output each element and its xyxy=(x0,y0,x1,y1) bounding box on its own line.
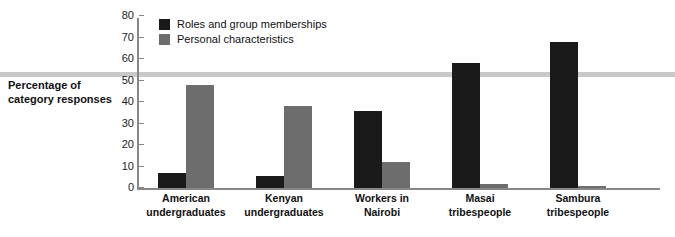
legend-swatch-personal-icon xyxy=(159,34,170,45)
bar-group: Samburatribespeople xyxy=(550,16,606,188)
y-tick: 10 xyxy=(139,166,144,167)
y-tick: 80 xyxy=(139,15,144,16)
x-axis-category-label: Samburatribespeople xyxy=(517,192,639,219)
bar-group: Workers inNairobi xyxy=(354,16,410,188)
bar-group: Masaitribespeople xyxy=(452,16,508,188)
legend-item-roles: Roles and group memberships xyxy=(159,17,327,32)
y-axis-title-line-1: Percentage of xyxy=(8,79,120,93)
bar-personal xyxy=(284,106,312,188)
bar-personal xyxy=(480,184,508,188)
y-tick: 30 xyxy=(139,123,144,124)
y-tick: 0 xyxy=(139,187,144,188)
x-axis-line xyxy=(137,188,660,190)
bar-roles xyxy=(158,173,186,188)
y-tick-label: 40 xyxy=(122,96,134,107)
bar-chart-figure: Percentage of category responses 0102030… xyxy=(0,0,675,237)
y-tick-label: 10 xyxy=(122,160,134,171)
x-axis-category-label-line-1: Sambura xyxy=(517,192,639,206)
legend-label-roles: Roles and group memberships xyxy=(177,19,327,30)
chart-legend: Roles and group memberships Personal cha… xyxy=(159,17,327,47)
x-axis-category-label-line-2: tribespeople xyxy=(517,206,639,220)
bar-roles xyxy=(452,63,480,188)
y-tick-label: 80 xyxy=(122,10,134,21)
y-tick-label: 60 xyxy=(122,53,134,64)
bar-personal xyxy=(578,186,606,188)
y-tick: 20 xyxy=(139,144,144,145)
y-axis-title: Percentage of category responses xyxy=(8,79,120,107)
y-axis-title-line-2: category responses xyxy=(8,93,120,107)
y-tick-label: 20 xyxy=(122,139,134,150)
bar-personal xyxy=(382,162,410,188)
legend-swatch-roles-icon xyxy=(159,19,170,30)
legend-label-personal: Personal characteristics xyxy=(177,34,294,45)
y-tick: 40 xyxy=(139,101,144,102)
y-tick-label: 30 xyxy=(122,117,134,128)
y-tick-label: 50 xyxy=(122,74,134,85)
y-tick: 60 xyxy=(139,58,144,59)
y-axis-line xyxy=(137,18,139,190)
bar-roles xyxy=(550,42,578,188)
y-tick: 50 xyxy=(139,80,144,81)
y-tick-label: 70 xyxy=(122,31,134,42)
bar-roles xyxy=(256,176,284,188)
legend-item-personal: Personal characteristics xyxy=(159,32,327,47)
bar-personal xyxy=(186,85,214,188)
bar-roles xyxy=(354,111,382,188)
y-tick-label: 0 xyxy=(128,182,134,193)
y-tick: 70 xyxy=(139,37,144,38)
